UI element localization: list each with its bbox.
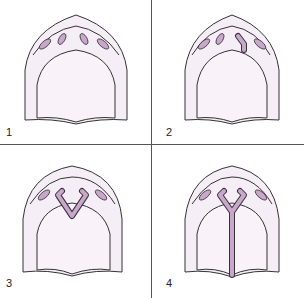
panel-label: 4 (166, 277, 172, 289)
panel-label: 3 (6, 277, 12, 289)
palate-diagram-4 (152, 149, 304, 293)
panel-label: 1 (6, 126, 12, 138)
palate-diagram-1 (0, 0, 152, 144)
panel-4: 4 (152, 149, 304, 298)
panel-1: 1 (0, 0, 152, 149)
palate-diagram-3 (0, 149, 152, 293)
panel-2: 2 (152, 0, 304, 149)
panel-3: 3 (0, 149, 152, 298)
palate-diagram-2 (152, 0, 304, 144)
panel-label: 2 (166, 126, 172, 138)
